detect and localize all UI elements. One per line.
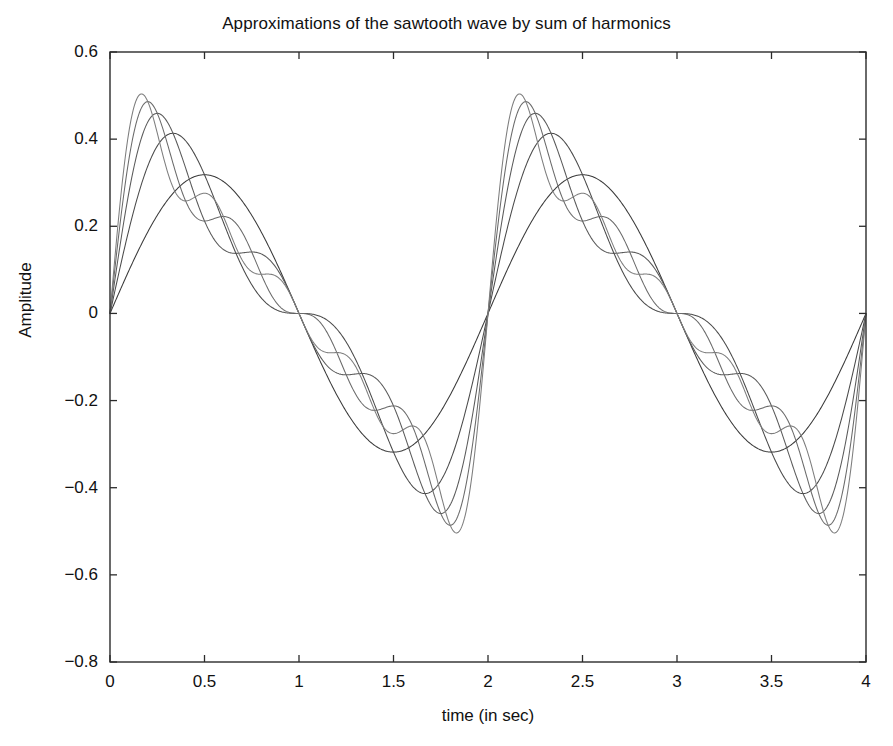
x-axis-label: time (in sec) xyxy=(110,706,866,726)
x-tick-label: 3.5 xyxy=(760,672,784,692)
y-tick-label: −0.2 xyxy=(32,391,98,411)
figure-canvas: Approximations of the sawtooth wave by s… xyxy=(0,0,893,746)
x-tick-label: 4 xyxy=(861,672,870,692)
axis-ticks xyxy=(110,52,866,662)
y-tick-label: 0.4 xyxy=(32,129,98,149)
curve-group xyxy=(110,94,866,533)
y-tick-label: −0.8 xyxy=(32,652,98,672)
y-axis-label: Amplitude xyxy=(16,230,36,370)
y-tick-label: 0.6 xyxy=(32,42,98,62)
x-tick-label: 0 xyxy=(105,672,114,692)
y-tick-label: −0.6 xyxy=(32,565,98,585)
x-tick-label: 3 xyxy=(672,672,681,692)
y-tick-label: 0 xyxy=(32,303,98,323)
harmonic-curve-5 xyxy=(110,94,866,533)
x-tick-label: 1 xyxy=(294,672,303,692)
plot-area xyxy=(0,0,893,746)
y-tick-label: 0.2 xyxy=(32,216,98,236)
y-tick-label: −0.4 xyxy=(32,478,98,498)
axis-frame xyxy=(110,52,866,662)
x-tick-label: 1.5 xyxy=(382,672,406,692)
x-tick-label: 2.5 xyxy=(571,672,595,692)
x-tick-label: 2 xyxy=(483,672,492,692)
x-tick-label: 0.5 xyxy=(193,672,217,692)
